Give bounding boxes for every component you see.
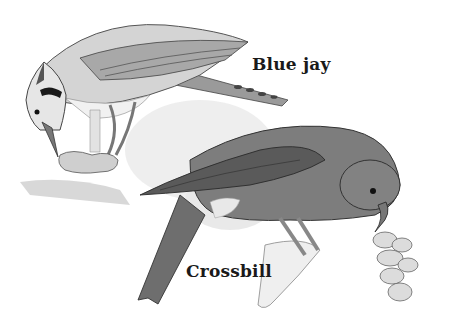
crossbill-label: Crossbill: [186, 261, 272, 281]
blue-jay-label: Blue jay: [252, 54, 331, 74]
pine-cone: [373, 232, 418, 301]
bird-illustration: Blue jay Crossbill: [0, 0, 457, 327]
